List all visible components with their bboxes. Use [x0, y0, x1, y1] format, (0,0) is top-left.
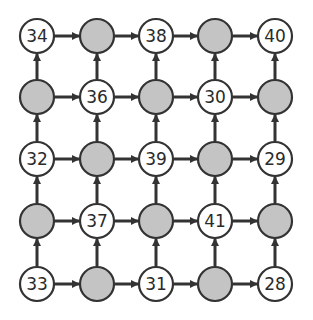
node-circle — [198, 19, 232, 53]
node-label: 38 — [145, 26, 167, 46]
number-node: 36 — [80, 80, 114, 114]
node-circle — [80, 142, 114, 176]
number-node: 40 — [258, 19, 292, 53]
node-label: 40 — [264, 26, 286, 46]
node-label: 30 — [204, 87, 226, 107]
empty-node — [258, 80, 292, 114]
node-label: 31 — [145, 274, 167, 294]
empty-node — [198, 19, 232, 53]
grid-diagram: 34384036303239293741333128 — [0, 0, 313, 320]
number-node: 30 — [198, 80, 232, 114]
node-label: 41 — [204, 211, 226, 231]
empty-node — [80, 267, 114, 301]
number-node: 37 — [80, 204, 114, 238]
node-circle — [20, 80, 54, 114]
node-circle — [20, 204, 54, 238]
node-circle — [139, 80, 173, 114]
empty-node — [139, 204, 173, 238]
node-label: 37 — [86, 211, 108, 231]
node-label: 36 — [86, 87, 108, 107]
node-circle — [80, 267, 114, 301]
node-label: 29 — [264, 149, 286, 169]
number-node: 31 — [139, 267, 173, 301]
number-node: 32 — [20, 142, 54, 176]
empty-node — [198, 267, 232, 301]
node-label: 39 — [145, 149, 167, 169]
node-label: 34 — [26, 26, 48, 46]
node-circle — [198, 267, 232, 301]
number-node: 28 — [258, 267, 292, 301]
empty-node — [20, 204, 54, 238]
empty-node — [139, 80, 173, 114]
number-node: 41 — [198, 204, 232, 238]
node-label: 32 — [26, 149, 48, 169]
empty-node — [20, 80, 54, 114]
empty-node — [198, 142, 232, 176]
node-label: 33 — [26, 274, 48, 294]
node-circle — [139, 204, 173, 238]
number-node: 34 — [20, 19, 54, 53]
node-label: 28 — [264, 274, 286, 294]
empty-node — [80, 142, 114, 176]
empty-node — [80, 19, 114, 53]
node-circle — [198, 142, 232, 176]
number-node: 38 — [139, 19, 173, 53]
empty-node — [258, 204, 292, 238]
node-circle — [258, 204, 292, 238]
number-node: 39 — [139, 142, 173, 176]
number-node: 29 — [258, 142, 292, 176]
node-circle — [258, 80, 292, 114]
node-circle — [80, 19, 114, 53]
number-node: 33 — [20, 267, 54, 301]
